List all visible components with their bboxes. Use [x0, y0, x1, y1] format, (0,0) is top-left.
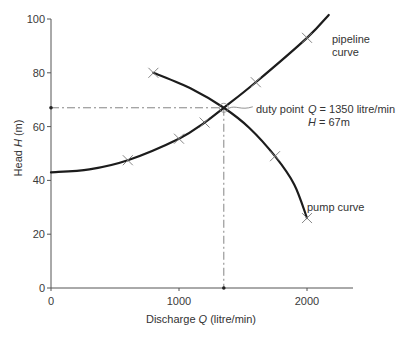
- pipeline-curve-label: pipeline curve: [332, 33, 373, 58]
- pump-pipeline-chart: 0 20 40 60 80 100 0 1000 2000 Discharge …: [0, 0, 399, 337]
- duty-head-axis-dot: [49, 106, 53, 110]
- y-tick-label: 40: [33, 174, 45, 186]
- duty-point-guides: [49, 106, 225, 290]
- duty-point-label: duty point: [256, 103, 304, 115]
- x-tick-label: 0: [48, 295, 54, 307]
- y-tick-label: 100: [27, 13, 45, 25]
- data-markers: [123, 33, 312, 223]
- y-axis-title: Head H (m): [12, 120, 24, 177]
- y-tick-label: 80: [33, 67, 45, 79]
- y-tick-label: 0: [39, 282, 45, 294]
- y-tick-label: 60: [33, 121, 45, 133]
- pump-curve-label: pump curve: [307, 201, 364, 213]
- pipeline-curve: [51, 15, 329, 172]
- axes: 0 20 40 60 80 100 0 1000 2000: [27, 13, 353, 307]
- duty-head-value: H = 67m: [308, 116, 350, 128]
- duty-discharge-value: Q = 1350 litre/min: [308, 103, 395, 115]
- y-tick-label: 20: [33, 228, 45, 240]
- x-tick-label: 2000: [295, 295, 319, 307]
- x-tick-label: 1000: [167, 295, 191, 307]
- x-axis-title: Discharge Q (litre/min): [146, 313, 256, 325]
- pump-curve: [153, 73, 307, 218]
- duty-point-leader-line: [229, 107, 253, 109]
- duty-discharge-axis-dot: [222, 286, 226, 290]
